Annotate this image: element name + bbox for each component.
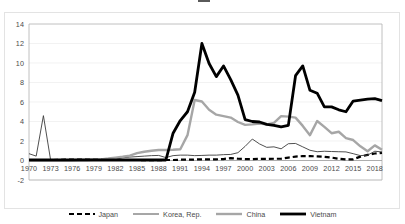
x-tick-label: 2018 (363, 164, 387, 173)
x-tick-label: 1985 (125, 164, 149, 173)
x-tick-label: 1976 (60, 164, 84, 173)
x-tick-label: 1994 (190, 164, 214, 173)
legend-swatch-china (216, 210, 242, 218)
x-tick-label: 2009 (298, 164, 322, 173)
x-tick-label: 1991 (168, 164, 192, 173)
x-tick-label: 2003 (255, 164, 279, 173)
x-tick-label: 1970 (17, 164, 41, 173)
legend-swatch-vietnam (280, 210, 306, 218)
y-tick-label: 10 (2, 59, 24, 68)
x-tick-label: 1979 (82, 164, 106, 173)
legend-item-japan[interactable]: Japan (69, 210, 119, 219)
x-tick-label: 1988 (147, 164, 171, 173)
x-tick-label: 1982 (103, 164, 127, 173)
x-tick-label: 2015 (341, 164, 365, 173)
legend-swatch-japan (69, 210, 95, 218)
x-tick-label: 1997 (212, 164, 236, 173)
chart-container: 14121086420-2 19701973197619791982198519… (0, 0, 405, 224)
y-tick-label: 6 (2, 98, 24, 107)
y-tick-label: 12 (2, 39, 24, 48)
line-chart-plot (0, 0, 405, 224)
y-tick-label: 14 (2, 20, 24, 29)
legend-swatch-korea-rep (133, 210, 159, 218)
legend-item-korea-rep[interactable]: Korea, Rep. (133, 210, 201, 219)
x-tick-label: 2012 (320, 164, 344, 173)
legend-label: Korea, Rep. (163, 210, 201, 219)
legend-label: Japan (99, 210, 119, 219)
y-tick-label: 2 (2, 137, 24, 146)
legend-item-vietnam[interactable]: Vietnam (280, 210, 336, 219)
x-tick-label: 2006 (276, 164, 300, 173)
y-tick-label: -2 (2, 176, 24, 185)
chart-legend: JapanKorea, Rep.ChinaVietnam (0, 206, 405, 222)
x-tick-label: 1973 (39, 164, 63, 173)
legend-label: China (246, 210, 265, 219)
y-tick-label: 4 (2, 117, 24, 126)
legend-label: Vietnam (310, 210, 336, 219)
series-line-korea-rep (29, 116, 382, 160)
x-tick-label: 2000 (233, 164, 257, 173)
y-tick-label: 8 (2, 78, 24, 87)
legend-item-china[interactable]: China (216, 210, 265, 219)
